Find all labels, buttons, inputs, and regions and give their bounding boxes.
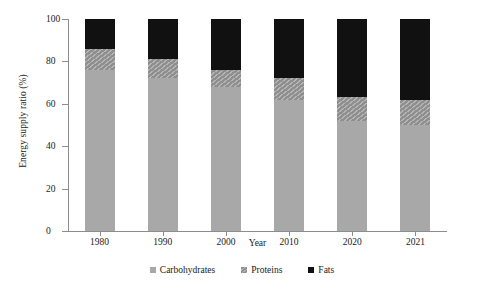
stacked-bar[interactable] <box>337 19 367 231</box>
bar-segment-proteins[interactable] <box>337 97 367 120</box>
carbohydrates-swatch <box>150 267 156 273</box>
y-axis-line <box>68 19 69 231</box>
bar-segment-proteins[interactable] <box>148 59 178 78</box>
proteins-swatch <box>241 267 247 273</box>
bar-segment-proteins[interactable] <box>211 70 241 87</box>
bar-segment-carbohydrates[interactable] <box>148 78 178 231</box>
y-tick-mark <box>62 19 68 20</box>
y-tick-label: 60 <box>46 99 57 109</box>
bar-segment-carbohydrates[interactable] <box>211 87 241 231</box>
y-tick-mark <box>62 189 68 190</box>
x-tick-mark <box>100 231 101 236</box>
x-tick-mark <box>415 231 416 236</box>
stacked-bar[interactable] <box>85 19 115 231</box>
bar-segment-carbohydrates[interactable] <box>400 125 430 231</box>
legend-item[interactable]: Fats <box>308 265 334 275</box>
y-tick-mark <box>62 231 68 232</box>
bar-segment-proteins[interactable] <box>85 49 115 70</box>
stacked-bar-chart-figure: Energy supply ratio (%) 020406080100 198… <box>0 0 484 294</box>
y-tick-label: 80 <box>46 56 57 66</box>
bar-segment-fats[interactable] <box>211 19 241 70</box>
x-axis-title: Year <box>68 238 447 248</box>
stacked-bar[interactable] <box>148 19 178 231</box>
legend-item[interactable]: Carbohydrates <box>150 265 215 275</box>
y-tick-label: 100 <box>46 14 57 24</box>
x-tick-mark <box>289 231 290 236</box>
y-tick-mark <box>62 104 68 105</box>
y-tick-mark <box>62 61 68 62</box>
x-tick-mark <box>163 231 164 236</box>
y-tick-mark <box>62 146 68 147</box>
y-axis-title: Energy supply ratio (%) <box>18 36 28 206</box>
y-tick-label: 40 <box>46 141 57 151</box>
stacked-bar[interactable] <box>400 19 430 231</box>
x-tick-mark <box>352 231 353 236</box>
legend-item-label: Carbohydrates <box>160 265 215 275</box>
stacked-bar[interactable] <box>274 19 304 231</box>
legend-item[interactable]: Proteins <box>241 265 282 275</box>
stacked-bar[interactable] <box>211 19 241 231</box>
legend-item-label: Fats <box>318 265 334 275</box>
bar-segment-fats[interactable] <box>148 19 178 59</box>
y-tick-label: 0 <box>46 226 57 236</box>
bar-segment-carbohydrates[interactable] <box>337 121 367 231</box>
x-axis-line <box>68 231 447 232</box>
fats-swatch <box>308 267 314 273</box>
x-tick-mark <box>226 231 227 236</box>
bar-segment-carbohydrates[interactable] <box>274 100 304 231</box>
legend-item-label: Proteins <box>251 265 282 275</box>
bar-segment-fats[interactable] <box>85 19 115 49</box>
bar-segment-proteins[interactable] <box>400 100 430 125</box>
bar-segment-proteins[interactable] <box>274 78 304 99</box>
bar-segment-fats[interactable] <box>274 19 304 78</box>
plot-area: 020406080100 198019902000201020202021 <box>68 19 447 231</box>
y-tick-label: 20 <box>46 184 57 194</box>
bar-segment-carbohydrates[interactable] <box>85 70 115 231</box>
bar-segment-fats[interactable] <box>400 19 430 100</box>
chart-legend: CarbohydratesProteinsFats <box>0 265 484 275</box>
bar-segment-fats[interactable] <box>337 19 367 97</box>
